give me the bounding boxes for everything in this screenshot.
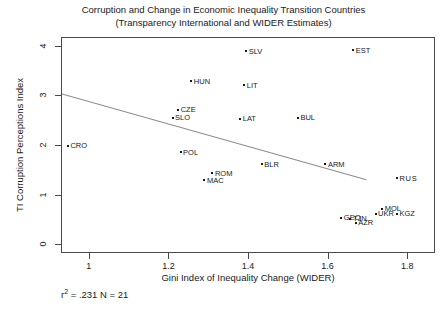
plot-area: SLVESTHUNLITCZESLOLATBULCROPOLBLRARMROMM… <box>62 38 434 252</box>
y-axis-label: TI Corruption Perceptions Index <box>14 37 28 253</box>
data-point-label: POL <box>183 148 198 157</box>
data-point-label: SLV <box>249 47 263 56</box>
data-point: SLV <box>245 48 262 56</box>
x-axis-label: Gini Index of Inequality Change (WIDER) <box>61 272 435 283</box>
y-tick-label: 4 <box>33 39 53 53</box>
data-point-label: KGZ <box>400 209 415 218</box>
y-tick-label: 2 <box>33 138 53 152</box>
data-point-marker <box>375 213 377 215</box>
statistics-annotation: r2 = .231 N = 21 <box>61 288 128 300</box>
data-point-label: MAC <box>207 176 224 185</box>
data-point-label: UKR <box>378 209 394 218</box>
x-tick-mark <box>328 253 329 259</box>
data-point: RUS <box>396 175 417 183</box>
data-point-marker <box>190 80 192 82</box>
chart-title-line-2: (Transparency International and WIDER Es… <box>0 16 447 29</box>
chart-title: Corruption and Change in Economic Inequa… <box>0 3 447 29</box>
x-tick-mark <box>168 253 169 259</box>
data-point-marker <box>177 109 179 111</box>
data-point-marker <box>67 145 69 147</box>
data-point-label: AZR <box>358 218 373 227</box>
x-tick-label: 1.6 <box>308 261 348 271</box>
data-point-marker <box>396 177 398 179</box>
data-point-marker <box>261 163 263 165</box>
data-point: BUL <box>297 114 315 122</box>
data-point-marker <box>211 172 213 174</box>
data-point: LIT <box>243 82 257 90</box>
data-point: BLR <box>261 161 279 169</box>
data-point-marker <box>172 117 174 119</box>
data-point-label: BUL <box>300 113 315 122</box>
data-point-marker <box>243 84 245 86</box>
data-point-label: LIT <box>247 81 258 90</box>
data-point-marker <box>297 117 299 119</box>
data-point-marker <box>340 217 342 219</box>
x-tick-mark <box>407 253 408 259</box>
data-point-marker <box>245 50 247 52</box>
data-point-label: RUS <box>400 174 418 183</box>
data-point: HUN <box>190 78 210 86</box>
data-point-label: BLR <box>264 160 279 169</box>
data-point-label: ARM <box>328 160 345 169</box>
x-tick-label: 1.4 <box>228 261 268 271</box>
data-point: POL <box>180 149 199 157</box>
data-point-label: SLO <box>175 113 190 122</box>
data-point: MAC <box>203 177 223 185</box>
data-point: KGZ <box>396 210 415 218</box>
y-tick-label: 0 <box>33 237 53 251</box>
data-point-marker <box>324 163 326 165</box>
chart-title-line-1: Corruption and Change in Economic Inequa… <box>0 3 447 16</box>
y-tick-label: 3 <box>33 88 53 102</box>
data-point-label: CRO <box>70 141 87 150</box>
data-point-label: EST <box>356 46 371 55</box>
data-point-marker <box>180 151 182 153</box>
x-tick-label: 1.8 <box>387 261 427 271</box>
data-point: LAT <box>239 115 256 123</box>
regression-trendline <box>62 38 434 252</box>
x-tick-mark <box>89 253 90 259</box>
y-tick-label: 1 <box>33 188 53 202</box>
data-point: CRO <box>67 142 87 150</box>
data-point-label: HUN <box>194 77 210 86</box>
data-point: EST <box>352 47 370 55</box>
x-tick-mark <box>248 253 249 259</box>
x-tick-label: 1 <box>69 261 109 271</box>
data-point: AZR <box>355 219 374 227</box>
data-point-marker <box>396 213 398 215</box>
statistics-values: = .231 N = 21 <box>68 289 128 300</box>
data-point-marker <box>349 218 351 220</box>
data-point: SLO <box>172 114 191 122</box>
scatter-plot-figure: Corruption and Change in Economic Inequa… <box>0 0 447 310</box>
x-tick-label: 1.2 <box>148 261 188 271</box>
data-point: ARM <box>324 161 344 169</box>
data-point-label: LAT <box>243 114 256 123</box>
data-point-marker <box>239 118 241 120</box>
data-point-marker <box>355 222 357 224</box>
data-point: UKR <box>375 210 394 218</box>
plot-frame: SLVESTHUNLITCZESLOLATBULCROPOLBLRARMROMM… <box>61 37 435 253</box>
data-point-marker <box>352 49 354 51</box>
data-point-marker <box>203 179 205 181</box>
